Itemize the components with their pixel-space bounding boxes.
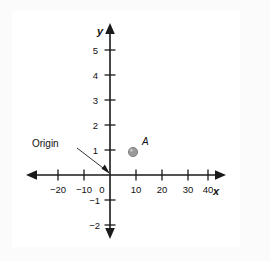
y-tick-label-5: 5 [93, 45, 98, 56]
plot-panel: −20 −10 0 10 20 30 40 5 4 3 2 1 −1 −2 y … [12, 11, 240, 247]
data-point-a [128, 147, 137, 156]
x-tick-label-10: 10 [131, 184, 142, 195]
y-tick-label-4: 4 [93, 70, 98, 81]
x-tick-label-20: 20 [157, 184, 168, 195]
coordinate-plane-figure: −20 −10 0 10 20 30 40 5 4 3 2 1 −1 −2 y … [0, 0, 270, 261]
y-tick-label-1: 1 [93, 145, 98, 156]
x-tick-label-40: 40 [203, 184, 214, 195]
y-axis-down-arrow-icon [105, 228, 115, 239]
x-tick-label-neg10: −10 [76, 184, 92, 195]
coordinate-graph: −20 −10 0 10 20 30 40 5 4 3 2 1 −1 −2 y … [12, 11, 240, 247]
y-tick-label-neg2: −2 [89, 220, 100, 231]
origin-leader-arrow-icon [102, 165, 110, 174]
y-tick-label-neg1: −1 [89, 195, 100, 206]
x-axis-left-arrow-icon [26, 170, 37, 180]
x-axis-right-arrow-icon [215, 170, 226, 180]
x-tick-label-30: 30 [183, 184, 194, 195]
data-point-a-highlight [130, 149, 133, 152]
x-tick-label-zero: 0 [99, 184, 104, 195]
y-axis-up-arrow-icon [105, 23, 115, 34]
x-axis-name-label: x [212, 185, 220, 197]
x-tick-label-neg20: −20 [50, 184, 66, 195]
data-point-a-label: A [141, 136, 149, 147]
y-axis-name-label: y [96, 25, 104, 37]
y-tick-label-2: 2 [93, 120, 98, 131]
origin-annotation-label: Origin [32, 138, 59, 149]
y-tick-label-3: 3 [93, 95, 98, 106]
